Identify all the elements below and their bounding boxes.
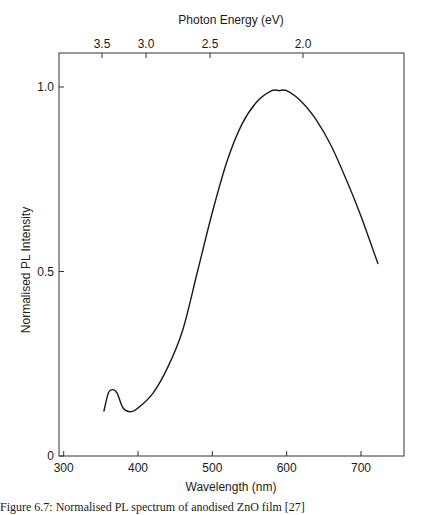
x-tick-label: 400	[128, 461, 148, 475]
x-tick-label: 700	[351, 461, 371, 475]
figure-caption: Figure 6.7: Normalised PL spectrum of an…	[0, 500, 305, 515]
top-tick-label: 2.5	[202, 37, 219, 51]
y-axis-title: Normalised PL Intensity	[19, 207, 33, 333]
pl-curve	[104, 90, 378, 412]
top-axis-title: Photon Energy (eV)	[178, 13, 283, 27]
x-tick-label: 300	[54, 461, 74, 475]
y-axis-ticks: 00.51.0	[37, 80, 64, 463]
x-tick-label: 500	[202, 461, 222, 475]
top-tick-label: 2.0	[295, 37, 312, 51]
top-axis-ticks: 3.53.02.52.0	[94, 37, 312, 58]
x-tick-label: 600	[277, 461, 297, 475]
y-tick-label: 1.0	[37, 80, 54, 94]
x-axis-title: Wavelength (nm)	[186, 480, 277, 494]
y-tick-label: 0.5	[37, 265, 54, 279]
plot-frame	[59, 53, 404, 456]
top-tick-label: 3.0	[138, 37, 155, 51]
x-axis-ticks: 300400500600700	[54, 451, 372, 475]
top-tick-label: 3.5	[94, 37, 111, 51]
pl-spectrum-chart: Photon Energy (eV) 3.53.02.52.0 00.51.0 …	[0, 0, 423, 500]
